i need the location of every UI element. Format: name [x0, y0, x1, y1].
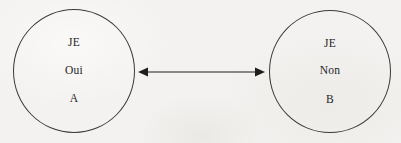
- node-a-line-1: JE: [68, 37, 80, 49]
- node-circle-b[interactable]: JE Non B: [269, 10, 391, 133]
- node-b-line-2: Non: [320, 65, 341, 77]
- node-a-line-2: Oui: [65, 65, 83, 77]
- diagram-canvas: JE Oui A JE Non B: [0, 0, 401, 143]
- node-a-line-3: A: [70, 93, 79, 105]
- double-headed-arrow-icon: [136, 62, 267, 82]
- node-circle-a[interactable]: JE Oui A: [13, 9, 135, 133]
- node-b-line-3: B: [326, 94, 334, 106]
- node-b-line-1: JE: [324, 38, 336, 50]
